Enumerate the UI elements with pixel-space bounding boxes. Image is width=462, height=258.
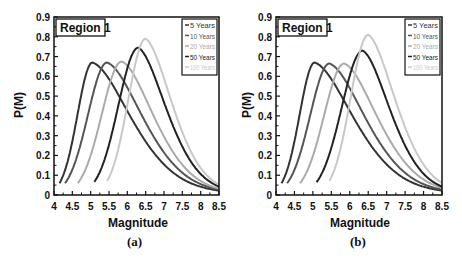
x-tick-label: 7.5 [175, 201, 189, 212]
x-tick-label: 6 [347, 201, 353, 212]
y-tick-label: 0.4 [258, 111, 272, 122]
legend-label: 10 Years [190, 33, 215, 40]
y-tick-label: 0.6 [36, 71, 50, 82]
y-tick-label: 0.1 [258, 170, 272, 181]
y-tick-label: 0.4 [36, 111, 50, 122]
x-tick-label: 8.5 [435, 201, 449, 212]
series-line-20-years [78, 62, 221, 190]
x-tick-label: 6.5 [361, 201, 375, 212]
x-tick-label: 5.5 [324, 201, 338, 212]
y-tick-label: 0.3 [258, 131, 272, 142]
y-tick-label: 0.7 [258, 52, 272, 63]
y-tick-label: 0.8 [258, 32, 272, 43]
legend-label: 50 Years [413, 54, 438, 61]
x-tick-label: 4 [51, 201, 57, 212]
x-tick-label: 5 [88, 201, 94, 212]
x-tick-label: 7 [161, 201, 167, 212]
x-tick-label: 4.5 [65, 201, 79, 212]
x-tick-label: 5.5 [102, 201, 116, 212]
y-tick-label: 0.5 [36, 91, 50, 102]
y-tick-label: 0.9 [36, 12, 50, 23]
chart-panel-a: 00.10.20.30.40.50.60.70.80.944.555.566.5… [0, 0, 231, 258]
legend-label: 20 Years [413, 43, 438, 50]
x-tick-label: 7.5 [398, 201, 412, 212]
legend-label: 5 Years [190, 22, 216, 29]
x-tick-label: 7 [384, 201, 390, 212]
x-tick-label: 8 [198, 201, 204, 212]
x-axis-label-b: Magnitude [330, 216, 390, 230]
series-line-20-years [300, 64, 444, 189]
y-tick-label: 0.3 [36, 131, 50, 142]
y-axis-label-a: P(M) [12, 92, 26, 118]
x-tick-label: 5 [310, 201, 316, 212]
x-axis-label-a: Magnitude [108, 216, 168, 230]
legend-label: 100 Years [190, 64, 215, 71]
y-tick-label: 0.7 [36, 52, 50, 63]
x-tick-label: 8 [421, 201, 427, 212]
x-tick-label: 6.5 [139, 201, 153, 212]
legend-label: 100 Years [413, 64, 438, 71]
y-tick-label: 0.5 [258, 91, 272, 102]
y-tick-label: 0 [44, 190, 50, 201]
y-tick-label: 0.1 [36, 170, 50, 181]
y-axis-label-b: P(M) [240, 92, 254, 118]
y-tick-label: 0.8 [36, 32, 50, 43]
x-tick-label: 4 [273, 201, 279, 212]
x-tick-label: 4.5 [287, 201, 301, 212]
caption-a: (a) [127, 234, 142, 250]
caption-b: (b) [350, 234, 366, 250]
legend-label: 50 Years [190, 54, 215, 61]
y-tick-label: 0 [266, 190, 272, 201]
x-tick-label: 6 [125, 201, 131, 212]
y-tick-label: 0.2 [258, 150, 272, 161]
legend-label: 10 Years [413, 33, 438, 40]
legend-label: 5 Years [413, 22, 439, 29]
y-tick-label: 0.9 [258, 12, 272, 23]
chart-panel-b: 00.10.20.30.40.50.60.70.80.944.555.566.5… [222, 0, 453, 258]
y-tick-label: 0.2 [36, 150, 50, 161]
region-title: Region 1 [60, 21, 111, 35]
y-tick-label: 0.6 [258, 71, 272, 82]
legend-label: 20 Years [190, 43, 215, 50]
region-title: Region 1 [282, 21, 333, 35]
